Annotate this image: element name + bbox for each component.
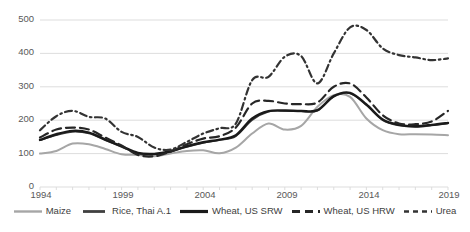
legend-label-maize: Maize [46,206,71,216]
series-lines [40,26,448,157]
legend-label-urea: Urea [436,206,457,216]
legend-label-wheat-us-srw: Wheat, US SRW [212,206,283,216]
legend-item-maize[interactable]: Maize [14,206,71,216]
legend-swatch-maize [14,207,42,216]
legend-swatch-urea [404,207,432,216]
series-line-wheat-us-srw [40,92,448,154]
series-line-wheat-us-hrw [40,83,448,157]
legend-swatch-wheat-us-hrw [292,207,320,216]
legend-swatch-rice-thai-a1 [80,207,108,216]
legend-label-wheat-us-hrw: Wheat, US HRW [324,206,395,216]
legend-item-wheat-us-hrw[interactable]: Wheat, US HRW [292,206,395,216]
plot-canvas [0,0,470,232]
legend-label-rice-thai-a1: Rice, Thai A.1 [112,206,171,216]
legend-item-rice-thai-a1[interactable]: Rice, Thai A.1 [80,206,171,216]
legend-item-urea[interactable]: Urea [404,206,457,216]
legend-item-wheat-us-srw[interactable]: Wheat, US SRW [180,206,283,216]
legend-swatch-wheat-us-srw [180,207,208,216]
legend: Maize Rice, Thai A.1 Wheat, US SRW Wheat… [0,206,470,216]
line-chart: 500 400 300 200 100 0 1994 1999 2004 200… [0,0,470,232]
